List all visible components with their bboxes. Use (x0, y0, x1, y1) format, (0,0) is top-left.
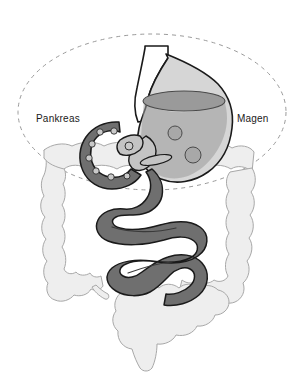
duodenum-islet (108, 174, 114, 180)
label-pankreas: Pankreas (36, 113, 80, 125)
stomach-particle (185, 147, 201, 163)
pancreas-islet-circle (125, 142, 133, 150)
duodenum-islet (86, 155, 92, 161)
stomach-fluid-surface (143, 91, 225, 111)
label-magen: Magen (237, 113, 269, 125)
digestive-tract-illustration (0, 0, 305, 380)
duodenum-islet (124, 173, 130, 179)
duodenum-islet (93, 168, 99, 174)
anatomy-figure: Pankreas Magen (0, 0, 305, 380)
stomach-particle (168, 126, 182, 140)
duodenum-islet (89, 141, 95, 147)
duodenum-islet (111, 128, 117, 134)
duodenum-islet (97, 129, 103, 135)
